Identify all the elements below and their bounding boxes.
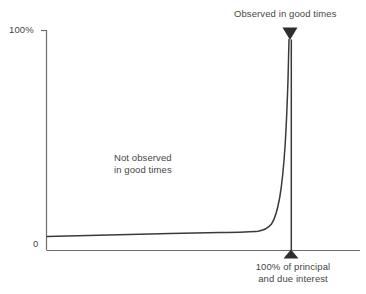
annotation-not-observed-line1: Not observed bbox=[114, 152, 172, 163]
chart-figure: 100% 0 Observed in good times Not observ… bbox=[0, 0, 366, 294]
distribution-curve bbox=[47, 40, 289, 237]
chart-canvas bbox=[0, 0, 366, 294]
annotation-principal-and-due-interest: 100% of principal and due interest bbox=[241, 261, 345, 284]
y-axis-label-zero: 0 bbox=[33, 238, 38, 250]
annotation-observed-in-good-times: Observed in good times bbox=[234, 8, 337, 20]
triangle-down-marker bbox=[283, 28, 298, 41]
y-axis-label-100: 100% bbox=[9, 24, 34, 36]
annotation-not-observed-line2: in good times bbox=[114, 164, 172, 175]
annotation-not-observed-in-good-times: Not observedin good times bbox=[114, 152, 172, 175]
